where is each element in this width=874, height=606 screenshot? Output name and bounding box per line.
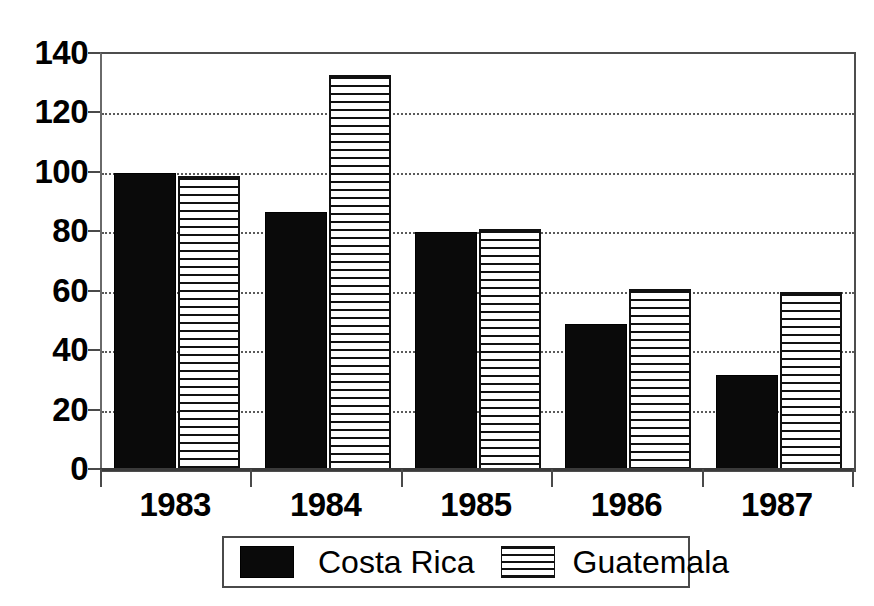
x-axis-tick-mark xyxy=(551,469,553,487)
bar-costa-rica-1983 xyxy=(114,173,176,470)
gridline xyxy=(102,113,854,115)
y-axis-tick-label: 40 xyxy=(8,333,88,366)
bar-chart: 020406080100120140 19831984198519861987 … xyxy=(0,0,874,606)
y-axis-tick-label: 80 xyxy=(8,214,88,247)
x-axis-tick-label: 1983 xyxy=(139,488,210,521)
plot-area xyxy=(100,52,856,472)
y-axis-tick-label: 120 xyxy=(8,95,88,128)
legend-entry-costa-rica: Costa Rica xyxy=(240,538,475,586)
x-axis-tick-mark xyxy=(852,469,854,487)
x-axis-tick-label: 1985 xyxy=(440,488,511,521)
x-axis-tick-label: 1987 xyxy=(741,488,812,521)
x-axis-tick-mark xyxy=(100,469,102,487)
horizontal-hatch-swatch-icon xyxy=(501,546,555,578)
x-axis-tick-label: 1984 xyxy=(290,488,361,521)
chart-legend: Costa Rica Guatemala xyxy=(222,536,690,588)
bar-costa-rica-1986 xyxy=(565,324,627,470)
x-axis-tick-mark xyxy=(250,469,252,487)
solid-black-swatch-icon xyxy=(240,546,294,578)
legend-entry-guatemala: Guatemala xyxy=(501,538,730,586)
y-axis-tick-label: 60 xyxy=(8,273,88,306)
legend-label-guatemala: Guatemala xyxy=(573,546,730,578)
bar-guatemala-1985 xyxy=(479,229,541,470)
y-axis-tick-label: 0 xyxy=(8,452,88,485)
x-axis-tick-label: 1986 xyxy=(591,488,662,521)
gridline xyxy=(102,173,854,175)
y-axis-tick-label: 20 xyxy=(8,392,88,425)
y-axis-tick-label: 100 xyxy=(8,154,88,187)
y-axis-tick-label: 140 xyxy=(8,36,88,69)
x-axis-tick-mark xyxy=(702,469,704,487)
bar-guatemala-1984 xyxy=(329,75,391,470)
bar-costa-rica-1985 xyxy=(415,232,477,470)
bar-costa-rica-1987 xyxy=(716,375,778,470)
bar-guatemala-1987 xyxy=(780,292,842,470)
y-axis-tick-labels: 020406080100120140 xyxy=(8,0,88,606)
bar-guatemala-1983 xyxy=(178,176,240,470)
x-axis-tick-mark xyxy=(401,469,403,487)
bar-costa-rica-1984 xyxy=(265,212,327,471)
bar-guatemala-1986 xyxy=(629,289,691,470)
legend-label-costa-rica: Costa Rica xyxy=(318,546,475,578)
